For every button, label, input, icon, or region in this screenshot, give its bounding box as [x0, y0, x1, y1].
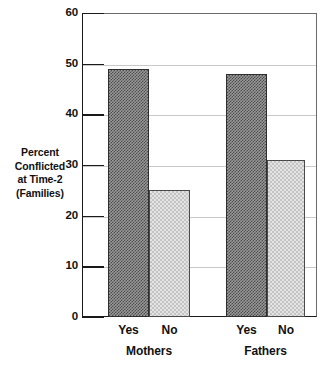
x-label-fathers-yes: Yes	[226, 323, 267, 337]
bar-chart: Percent Conflicted at Time-2 (Families) …	[0, 0, 326, 365]
x-label-fathers-no: No	[267, 323, 305, 337]
bar-fathers-yes[interactable]	[226, 74, 267, 317]
y-axis-title-line-3: at Time-2	[0, 173, 80, 187]
y-tick-label-50: 50	[38, 57, 78, 69]
y-tick-label-60: 60	[38, 6, 78, 18]
bar-mothers-no[interactable]	[149, 190, 190, 317]
y-tick-label-40: 40	[38, 107, 78, 119]
y-axis-title: Percent Conflicted at Time-2 (Families)	[0, 146, 80, 200]
x-group-label-fathers: Fathers	[226, 344, 305, 358]
y-tick-0	[82, 317, 104, 318]
bars-layer	[82, 13, 317, 317]
y-tick-label-20: 20	[38, 209, 78, 221]
x-group-label-mothers: Mothers	[108, 344, 190, 358]
x-label-mothers-no: No	[149, 323, 190, 337]
bar-fathers-no[interactable]	[267, 160, 305, 317]
x-label-mothers-yes: Yes	[108, 323, 149, 337]
bar-mothers-yes[interactable]	[108, 69, 149, 317]
y-tick-label-10: 10	[38, 259, 78, 271]
y-axis-title-line-4: (Families)	[0, 187, 80, 201]
y-tick-label-30: 30	[38, 158, 78, 170]
y-tick-label-0: 0	[38, 310, 78, 322]
